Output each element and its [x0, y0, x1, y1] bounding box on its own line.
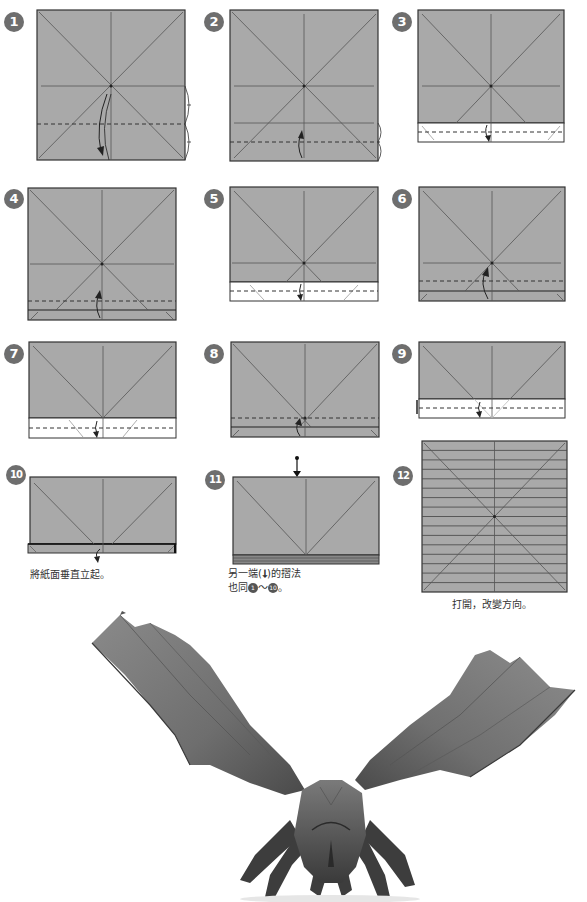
- step-10-caption: 將紙面垂直立起。: [30, 568, 110, 582]
- crease-diagram: [419, 187, 567, 302]
- crease-diagram: [419, 342, 567, 420]
- step-number-badge: 1: [4, 12, 24, 32]
- step-4: 4: [0, 175, 200, 330]
- step-7: 7: [0, 330, 200, 450]
- fold-arrow-icon: [94, 556, 100, 563]
- step-number-badge: 3: [392, 12, 412, 32]
- step-number-badge: 6: [392, 189, 412, 209]
- caption-line-1: 另一端(⭣)的摺法: [228, 567, 301, 581]
- step-11: 11 另一端(⭣)的摺法 也同1～10。: [200, 450, 390, 610]
- crease-diagram: [418, 10, 566, 143]
- step-number-badge: 8: [204, 344, 224, 364]
- step-8: 8: [200, 330, 390, 450]
- left-wing: [92, 611, 305, 795]
- step-12: 12 打開，改變方向。: [390, 430, 587, 620]
- step-6: 6: [390, 175, 587, 330]
- step-ref-badge: 10: [268, 583, 278, 593]
- step-3: 3: [390, 0, 587, 175]
- step-number-badge: 11: [205, 470, 225, 490]
- caption-line-2: 也同1～10。: [228, 581, 301, 595]
- step-9: 9: [390, 330, 587, 440]
- crease-diagram: [29, 342, 177, 439]
- step-number-badge: 9: [392, 344, 412, 364]
- crease-diagram: [231, 342, 381, 438]
- crease-diagram: [230, 10, 380, 162]
- crease-diagram: [37, 10, 187, 162]
- crease-diagram: [28, 188, 178, 322]
- crease-diagram: [422, 441, 569, 593]
- step-number-badge: 7: [4, 344, 24, 364]
- step-2: 2: [200, 0, 390, 175]
- step-number-badge: 5: [204, 189, 224, 209]
- crease-diagram: [231, 454, 383, 566]
- step-11-caption: 另一端(⭣)的摺法 也同1～10。: [228, 567, 301, 595]
- step-number-badge: 12: [393, 466, 413, 486]
- step-1: 1: [0, 0, 200, 175]
- step-number-badge: 10: [6, 465, 26, 485]
- step-ref-badge: 1: [248, 583, 258, 593]
- body: [294, 780, 366, 883]
- step-number-badge: 4: [4, 189, 24, 209]
- crease-diagram: [28, 477, 178, 559]
- origami-eagle-photo: [80, 605, 587, 902]
- step-number-badge: 2: [204, 12, 224, 32]
- step-10: 10 將紙面垂直立起。: [0, 450, 200, 600]
- step-5: 5: [200, 175, 390, 330]
- crease-diagram: [230, 187, 380, 302]
- right-wing: [355, 650, 575, 790]
